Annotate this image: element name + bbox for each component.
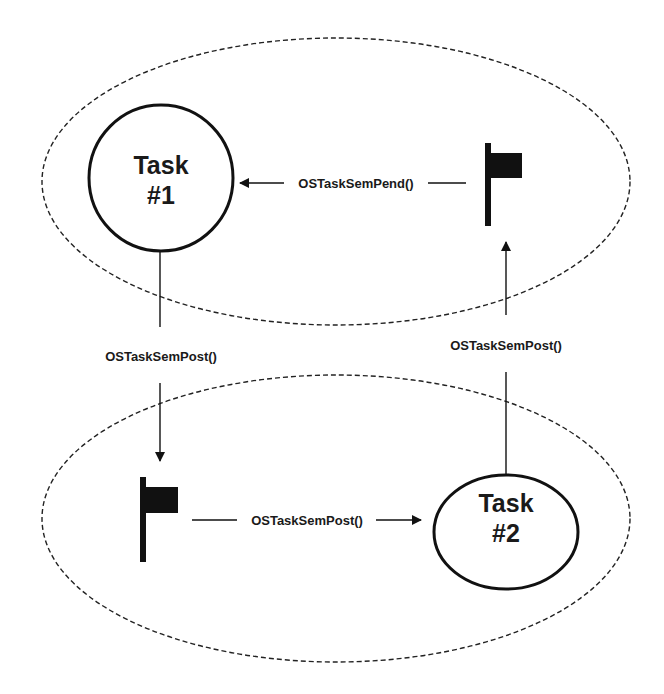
post-arrow-label-bottom: OSTaskSemPost() (251, 513, 363, 528)
task-1-label-line2: #1 (147, 181, 175, 209)
post-arrow-task2-to-flag: OSTaskSemPost() (450, 242, 562, 475)
post-arrow-label-right: OSTaskSemPost() (450, 338, 562, 353)
flag-icon (485, 143, 522, 226)
pend-arrow: OSTaskSemPend() (240, 176, 466, 191)
semaphore-diagram: Task #1 Task #2 OSTaskSemPend() OSTaskSe… (0, 0, 664, 694)
task-1-label-line1: Task (133, 151, 188, 179)
post-arrow-label-left: OSTaskSemPost() (105, 349, 217, 364)
task-2-label-line1: Task (478, 489, 533, 517)
flag-icon (140, 477, 178, 562)
post-arrow-flag-to-task2: OSTaskSemPost() (192, 513, 421, 528)
pend-arrow-label: OSTaskSemPend() (298, 176, 413, 191)
task-2-node: Task #2 (434, 475, 578, 589)
post-arrow-task1-to-flag: OSTaskSemPost() (105, 252, 217, 461)
task-1-node: Task #1 (89, 105, 233, 251)
task-2-label-line2: #2 (492, 519, 520, 547)
